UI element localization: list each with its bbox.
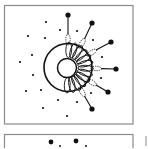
small-dot (66, 115, 68, 117)
small-dot (101, 56, 103, 58)
small-dot (19, 61, 21, 63)
large-dot (74, 139, 79, 144)
small-dot (76, 101, 78, 103)
ring-structure (44, 44, 92, 92)
small-dot (90, 92, 92, 94)
small-dot (76, 30, 78, 32)
tethered-large-dot (108, 39, 113, 44)
bottom-panel-content (49, 139, 87, 147)
panel-bottom (5, 135, 134, 149)
inner-circle (58, 59, 77, 78)
small-dot (27, 35, 29, 37)
small-dot (59, 29, 61, 31)
tethered-large-dot (105, 89, 110, 94)
small-dot (25, 90, 27, 92)
tether-line (85, 23, 93, 39)
diagram-canvas (0, 0, 148, 148)
small-dot (100, 77, 102, 79)
tethered-large-dot (65, 12, 70, 17)
small-dot (31, 54, 33, 56)
small-dot (45, 21, 47, 23)
large-dot (49, 140, 54, 145)
small-dot (42, 107, 44, 109)
small-dot (92, 39, 94, 41)
small-dot (32, 74, 34, 76)
small-dot (57, 99, 59, 101)
tethered-large-dot (89, 106, 94, 111)
small-dot (85, 145, 87, 147)
small-dot (40, 89, 42, 91)
tethered-large-dot (113, 66, 118, 71)
tethered-large-dot (89, 20, 94, 25)
small-dot (44, 37, 46, 39)
small-dot (59, 145, 61, 147)
